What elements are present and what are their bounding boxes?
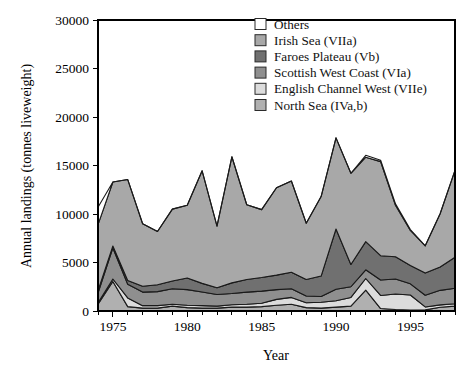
legend-label: English Channel West (VIIe) bbox=[274, 81, 427, 96]
legend-label: North Sea (IVa,b) bbox=[274, 98, 367, 113]
y-tick-label: 25000 bbox=[55, 61, 89, 76]
x-tick-label: 1975 bbox=[99, 319, 126, 334]
legend-swatch bbox=[255, 51, 266, 62]
x-tick-label: 1995 bbox=[397, 319, 424, 334]
legend-label: Irish Sea (VIIa) bbox=[274, 33, 357, 48]
legend-label: Scottish West Coast (VIa) bbox=[274, 65, 411, 80]
legend-swatch bbox=[255, 19, 266, 30]
y-tick-label: 30000 bbox=[55, 13, 89, 28]
x-axis-title: Year bbox=[263, 348, 289, 363]
chart-container: 050001000015000200002500030000 197519801… bbox=[0, 0, 474, 371]
y-tick-label: 10000 bbox=[55, 207, 89, 222]
x-tick-label: 1985 bbox=[248, 319, 275, 334]
y-tick-label: 15000 bbox=[55, 158, 89, 173]
y-axis: 050001000015000200002500030000 bbox=[55, 13, 98, 319]
y-tick-label: 5000 bbox=[62, 255, 89, 270]
y-tick-label: 0 bbox=[82, 304, 89, 319]
x-axis: 19751980198519901995 bbox=[98, 311, 455, 334]
x-tick-label: 1990 bbox=[323, 319, 350, 334]
legend-label: Faroes Plateau (Vb) bbox=[274, 49, 379, 64]
y-tick-label: 20000 bbox=[55, 110, 89, 125]
legend-label: Others bbox=[274, 17, 309, 32]
stacked-area-chart: 050001000015000200002500030000 197519801… bbox=[0, 0, 474, 371]
legend-swatch bbox=[255, 83, 266, 94]
legend-swatch bbox=[255, 35, 266, 46]
legend-swatch bbox=[255, 100, 266, 111]
legend-swatch bbox=[255, 67, 266, 78]
x-tick-label: 1980 bbox=[174, 319, 201, 334]
y-axis-title: Annual landings (tonnes liveweight) bbox=[19, 64, 35, 268]
